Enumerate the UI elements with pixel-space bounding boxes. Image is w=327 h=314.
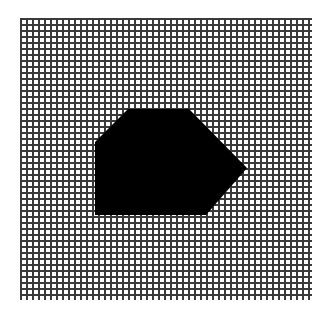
pixel-grid-canvas [0,0,327,314]
